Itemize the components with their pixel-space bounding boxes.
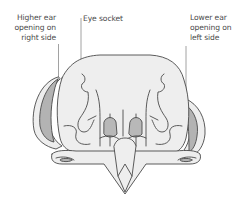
- right-jaw-slot: [180, 158, 192, 161]
- left-jaw-slot: [60, 158, 72, 161]
- beak: [114, 138, 136, 192]
- owl-skull-illustration: [0, 0, 250, 204]
- left-nasal-opening: [104, 118, 117, 138]
- cranium: [57, 55, 189, 152]
- right-nasal-opening: [129, 118, 142, 138]
